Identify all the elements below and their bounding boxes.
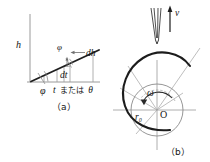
involute-curve (123, 52, 190, 130)
panel-a-x-axis-caption: t または θ (53, 85, 93, 95)
panel-a-dt-label: dt (60, 70, 68, 80)
figure-svg: h φ φ dh dt t または θ t または θ （a） (0, 0, 210, 162)
panel-b-velocity-label: v (175, 8, 180, 18)
panel-b-radial-spokes (120, 48, 200, 134)
panel-a-y-axis-label: h (16, 39, 21, 50)
dh-leader (71, 51, 86, 54)
panel-b-radius-label: r₀ (135, 112, 142, 122)
panel-b-caption: （b） (166, 147, 190, 157)
panel-a: h φ φ dh dt t または θ t または θ （a） (16, 14, 100, 112)
panel-a-caption: （a） (52, 102, 76, 112)
figure-root: h φ φ dh dt t または θ t または θ （a） (0, 0, 210, 162)
angle-arc-origin (44, 71, 48, 81)
panel-b-center-label: O (160, 109, 167, 120)
panel-a-angle-origin-label: φ (40, 85, 46, 96)
panel-b-angular-velocity-label: ω (147, 88, 154, 98)
panel-a-dh-label: dh (86, 48, 96, 58)
velocity-arrow (168, 6, 173, 33)
panel-b: v ω r₀ O （b） (113, 6, 200, 158)
panel-a-angle-mid-label: φ (57, 42, 62, 52)
stylus-nozzle (151, 8, 161, 44)
